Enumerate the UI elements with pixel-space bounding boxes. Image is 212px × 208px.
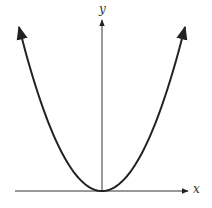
x-axis-label: x [193,183,200,195]
parabola-plot [0,0,212,208]
y-axis-label: y [99,3,106,15]
